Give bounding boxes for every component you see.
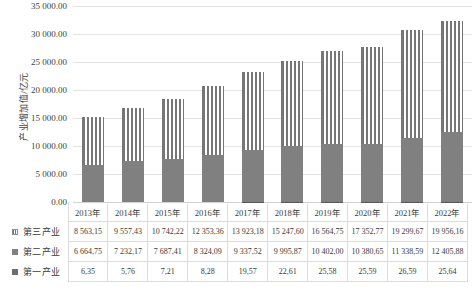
table-cell: 12 405,88 <box>427 242 467 262</box>
table-column-header: 2022年 <box>427 202 467 222</box>
bar-segment <box>441 132 463 201</box>
table-cell: 19 956,16 <box>427 222 467 242</box>
legend-entry[interactable]: 第一产业 <box>6 262 68 282</box>
table-cell: 7 687,41 <box>148 242 188 262</box>
bar-segment <box>281 146 303 202</box>
bar-segment <box>82 165 104 202</box>
legend-label: 第三产业 <box>23 225 60 238</box>
bars-layer <box>73 6 472 202</box>
table-cell: 6 664,75 <box>68 242 108 262</box>
bar-segment <box>321 144 343 202</box>
bar-segment <box>361 144 383 202</box>
table-cell: 26,59 <box>388 262 428 282</box>
table-cell: 7,21 <box>148 262 188 282</box>
legend-label: 第二产业 <box>23 245 60 258</box>
y-axis-tick-label: 30 000.00 <box>31 30 67 39</box>
data-table: 2013年2014年2015年2016年2017年2018年2019年2020年… <box>6 202 468 282</box>
table-cell: 11 338,59 <box>388 242 428 262</box>
bar-segment <box>162 99 184 159</box>
y-axis-tick-label: 25 000.00 <box>31 58 67 67</box>
table-cell: 25,59 <box>348 262 388 282</box>
table-column-header: 2018年 <box>268 202 308 222</box>
table-cell: 7 232,17 <box>108 242 148 262</box>
table-column-header: 2013年 <box>68 202 108 222</box>
table-cell: 15 247,60 <box>268 222 308 242</box>
bar-segment <box>441 21 463 133</box>
table-cell: 17 352,77 <box>348 222 388 242</box>
bar-segment <box>401 30 423 138</box>
table-cell: 13 923,18 <box>228 222 268 242</box>
table-cell: 10 380,65 <box>348 242 388 262</box>
y-axis-tick-label: 10 000.00 <box>31 142 67 151</box>
bar-segment <box>242 72 264 150</box>
table-cell: 22,61 <box>268 262 308 282</box>
table-row: 第一产业6,355,767,218,2819,5722,6125,5825,59… <box>6 262 468 282</box>
table-cell: 5,76 <box>108 262 148 282</box>
bar-segment <box>202 86 224 155</box>
legend-swatch-icon <box>12 249 18 255</box>
table-row: 第三产业8 563,159 557,4310 742,2212 353,3613… <box>6 222 468 242</box>
plot-area <box>73 6 472 202</box>
y-axis-tick-labels: 35 000.0030 000.0025 000.0020 000.0015 0… <box>14 6 70 202</box>
table-cell: 12 353,36 <box>188 222 228 242</box>
table-cell: 8 324,09 <box>188 242 228 262</box>
table-cell: 19 299,67 <box>388 222 428 242</box>
table-cell: 25,64 <box>427 262 467 282</box>
table-cell: 9 337,52 <box>228 242 268 262</box>
table-column-header: 2019年 <box>308 202 348 222</box>
table-cell: 10 742,22 <box>148 222 188 242</box>
chart-root: 产业增加值/亿元 35 000.0030 000.0025 000.0020 0… <box>0 0 472 296</box>
table-cell: 16 564,75 <box>308 222 348 242</box>
y-axis-tick-label: 5 000.00 <box>36 170 68 179</box>
bar-column <box>202 6 224 202</box>
table-cell: 10 402,00 <box>308 242 348 262</box>
bar-column <box>281 6 303 202</box>
bar-segment <box>82 117 104 165</box>
table-header-row: 2013年2014年2015年2016年2017年2018年2019年2020年… <box>6 202 468 222</box>
bar-segment <box>401 138 423 201</box>
bar-column <box>321 6 343 202</box>
table-cell: 25,58 <box>308 262 348 282</box>
legend-entry[interactable]: 第二产业 <box>6 242 68 262</box>
bar-segment <box>281 61 303 146</box>
table-cell: 8 563,15 <box>68 222 108 242</box>
table-column-header: 2014年 <box>108 202 148 222</box>
y-axis-tick-label: 35 000.00 <box>31 2 67 11</box>
table-column-header: 2016年 <box>188 202 228 222</box>
table-column-header: 2015年 <box>148 202 188 222</box>
table-cell: 19,57 <box>228 262 268 282</box>
bar-segment <box>162 159 184 202</box>
y-axis-tick-label: 15 000.00 <box>31 114 67 123</box>
table-cell: 9 557,43 <box>108 222 148 242</box>
bar-segment <box>122 161 144 202</box>
bar-column <box>242 6 264 202</box>
legend-entry[interactable]: 第三产业 <box>6 222 68 242</box>
bar-segment <box>361 47 383 144</box>
bar-segment <box>242 150 264 202</box>
table-column-header: 2020年 <box>348 202 388 222</box>
table-cell: 9 995,87 <box>268 242 308 262</box>
table-row: 第二产业6 664,757 232,177 687,418 324,099 33… <box>6 242 468 262</box>
bar-column <box>82 6 104 202</box>
table-cell: 8,28 <box>188 262 228 282</box>
bar-segment <box>321 51 343 144</box>
table-column-header: 2021年 <box>388 202 428 222</box>
plot-wrapper: 35 000.0030 000.0025 000.0020 000.0015 0… <box>14 6 472 202</box>
table-cell: 6,35 <box>68 262 108 282</box>
bar-column <box>441 6 463 202</box>
legend-swatch-icon <box>12 229 18 235</box>
bar-column <box>162 6 184 202</box>
y-axis-tick-label: 20 000.00 <box>31 86 67 95</box>
legend-swatch-icon <box>12 269 18 275</box>
bar-segment <box>122 108 144 162</box>
bar-column <box>361 6 383 202</box>
bar-column <box>401 6 423 202</box>
bar-column <box>122 6 144 202</box>
table-column-header: 2017年 <box>228 202 268 222</box>
bar-segment <box>202 155 224 202</box>
table-corner-cell <box>6 202 68 222</box>
legend-label: 第一产业 <box>23 265 60 278</box>
